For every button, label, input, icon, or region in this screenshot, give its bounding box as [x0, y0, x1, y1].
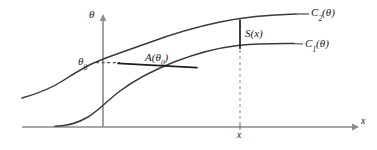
annotation-label-s-of-x: S(x) — [245, 28, 263, 39]
c1-arg: (θ) — [316, 37, 329, 49]
theta-axis — [100, 14, 107, 127]
a-paren-close: ) — [165, 51, 169, 63]
c2-arg: (θ) — [322, 6, 335, 18]
theta0-subscript: 0 — [84, 63, 88, 72]
x-axis-label: x — [361, 116, 365, 126]
theta-axis-arrowhead — [100, 14, 107, 21]
theta-axis-label: θ — [89, 9, 94, 20]
annotation-label-a-theta0: A(θ0) — [145, 52, 168, 66]
curve-label-c1: C1(θ) — [305, 38, 329, 52]
x-axis — [22, 124, 359, 131]
a-arg-subscript: 0 — [161, 59, 165, 68]
s-paren-close: ) — [259, 27, 263, 39]
theta0-tick-label: θ0 — [78, 56, 87, 70]
curve-label-c2: C2(θ) — [311, 7, 335, 21]
theta0-base: θ — [78, 55, 83, 67]
x-tick-label: x — [237, 130, 241, 140]
x-axis-arrowhead — [352, 124, 359, 131]
a-arg-symbol: θ — [155, 51, 160, 63]
c2-subscript: 2 — [318, 14, 322, 23]
figure-canvas: θ x θ0 x C2(θ) C1(θ) A(θ0) S(x) — [0, 0, 377, 150]
curve-c1 — [55, 44, 294, 127]
c1-subscript: 1 — [312, 45, 316, 54]
a-base: A — [145, 51, 152, 63]
